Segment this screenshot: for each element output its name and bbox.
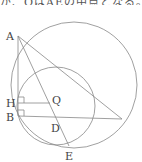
geometry-diagram: A H B Q D E (0, 0, 142, 162)
label-H: H (6, 97, 16, 110)
right-angle-H (18, 97, 24, 103)
label-Q: Q (52, 94, 61, 107)
segment-AE (18, 36, 69, 146)
label-A: A (5, 30, 15, 43)
label-B: B (6, 111, 14, 124)
label-E: E (65, 150, 73, 162)
label-D: D (51, 122, 60, 135)
segment-BC (18, 116, 122, 119)
large-circle (11, 22, 137, 148)
segment-AC (18, 36, 122, 119)
